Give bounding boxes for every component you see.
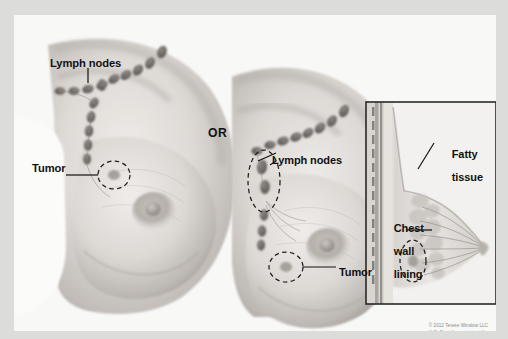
label-tumor-left: Tumor — [32, 163, 65, 175]
left-figure-body — [48, 39, 235, 314]
label-chest-wall-lining: Chest wall lining — [376, 212, 424, 292]
label-lymph-nodes-left: Lymph nodes — [50, 58, 121, 70]
label-fatty-tissue-line2: tissue — [452, 171, 483, 183]
copyright-line-2: U.S. Govt. has certain rights — [429, 330, 488, 331]
label-fatty-tissue-line1: Fatty — [452, 148, 478, 160]
label-fatty-tissue: Fatty tissue — [434, 138, 483, 195]
label-chest-wall-line1: Chest — [394, 222, 424, 234]
illustration-canvas: Lymph nodes Tumor OR Lymph nodes Tumor F… — [14, 15, 496, 331]
label-chest-wall-line2: wall — [394, 245, 414, 257]
copyright-line-1: © 2012 Terese Winslow LLC — [429, 323, 488, 330]
label-or-connector: OR — [208, 127, 227, 140]
medical-illustration-figure: Lymph nodes Tumor OR Lymph nodes Tumor F… — [0, 0, 508, 339]
label-tumor-right: Tumor — [339, 267, 372, 278]
label-lymph-nodes-right: Lymph nodes — [272, 155, 342, 166]
label-chest-wall-line3: lining — [394, 268, 423, 280]
